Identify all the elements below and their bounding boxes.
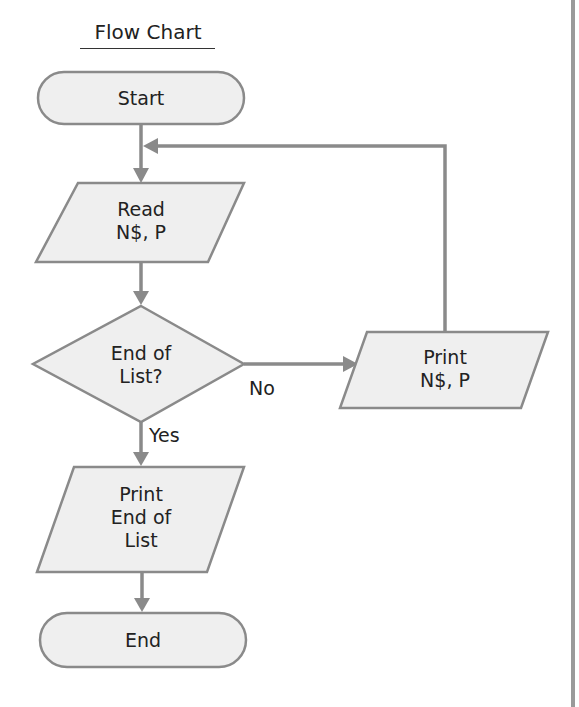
print-item-label: Print N$, P [355, 346, 535, 392]
read-label: Read N$, P [40, 198, 242, 244]
yes-edge-label: Yes [149, 424, 180, 446]
decision-label-line2: List? [40, 365, 242, 388]
read-label-line2: N$, P [40, 221, 242, 244]
decision-label-line1: End of [40, 342, 242, 365]
print-end-label: Print End of List [40, 483, 242, 552]
title-underline [80, 48, 215, 49]
arrowhead-icon [134, 598, 150, 612]
arrowhead-icon [133, 168, 149, 183]
print-item-label-line2: N$, P [355, 369, 535, 392]
arrowhead-icon [143, 138, 158, 154]
read-label-line1: Read [40, 198, 242, 221]
print-item-label-line1: Print [355, 346, 535, 369]
print-end-label-line3: List [40, 529, 242, 552]
print-end-label-line1: Print [40, 483, 242, 506]
arrowhead-icon [133, 452, 149, 466]
print-end-label-line2: End of [40, 506, 242, 529]
page-right-border [571, 0, 575, 707]
arrowhead-icon [133, 291, 149, 305]
end-label: End [40, 629, 246, 652]
no-edge-label: No [249, 377, 275, 399]
start-label: Start [38, 87, 244, 110]
page-title: Flow Chart [78, 20, 218, 44]
decision-label: End of List? [40, 342, 242, 388]
